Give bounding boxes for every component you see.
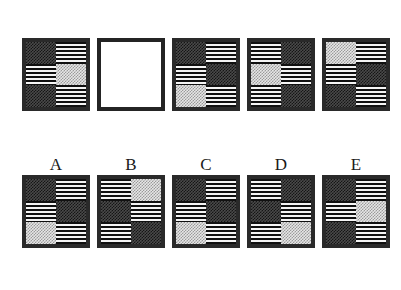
problem-tile-blank-cell <box>94 18 168 111</box>
segment-darkcheck-2 <box>251 201 281 223</box>
segment-darkcheck-1 <box>281 179 311 201</box>
answer-option-c-label: C <box>200 155 211 175</box>
problem-tile-1-cell <box>19 18 93 111</box>
segment-lightcheck-4 <box>26 222 56 244</box>
segment-darkcheck-3 <box>206 64 236 86</box>
segment-stripes-3 <box>281 201 311 223</box>
segment-stripes-5 <box>56 85 86 107</box>
segment-lightcheck-3 <box>56 64 86 86</box>
segment-stripes-2 <box>176 201 206 223</box>
problem-tile-4-cell <box>244 18 318 111</box>
answer-option-a-cell[interactable]: A <box>19 155 93 248</box>
segment-darkcheck-3 <box>56 201 86 223</box>
segment-stripes-4 <box>251 222 281 244</box>
segment-stripes-5 <box>56 222 86 244</box>
segment-lightcheck-1 <box>131 179 161 201</box>
segment-lightcheck-4 <box>176 85 206 107</box>
segment-stripes-5 <box>356 85 386 107</box>
segment-darkcheck-3 <box>356 64 386 86</box>
segment-darkcheck-4 <box>26 85 56 107</box>
segment-darkcheck-1 <box>281 42 311 64</box>
answer-option-a[interactable] <box>22 175 90 248</box>
segment-darkcheck-0 <box>26 179 56 201</box>
problem-tile-3-cell <box>169 18 243 111</box>
segment-stripes-5 <box>206 222 236 244</box>
segment-stripes-1 <box>356 42 386 64</box>
segment-darkcheck-3 <box>206 201 236 223</box>
blank-answer-tile <box>97 38 165 111</box>
segment-lightcheck-0 <box>326 42 356 64</box>
answer-option-b-label: B <box>125 155 136 175</box>
segment-stripes-1 <box>356 179 386 201</box>
segment-darkcheck-5 <box>281 85 311 107</box>
segment-stripes-2 <box>326 201 356 223</box>
segment-stripes-2 <box>176 64 206 86</box>
segment-stripes-5 <box>356 222 386 244</box>
problem-row <box>0 18 401 111</box>
segment-stripes-2 <box>26 201 56 223</box>
segment-stripes-3 <box>131 201 161 223</box>
answer-option-c[interactable] <box>172 175 240 248</box>
segment-darkcheck-0 <box>326 179 356 201</box>
segment-darkcheck-0 <box>176 42 206 64</box>
answer-option-e-label: E <box>351 155 361 175</box>
answer-option-d-cell[interactable]: D <box>244 155 318 248</box>
segment-stripes-0 <box>251 42 281 64</box>
segment-darkcheck-0 <box>26 42 56 64</box>
segment-stripes-2 <box>326 64 356 86</box>
problem-tile-3 <box>172 38 240 111</box>
answer-option-a-label: A <box>50 155 62 175</box>
answer-option-b[interactable] <box>97 175 165 248</box>
answer-option-d[interactable] <box>247 175 315 248</box>
problem-tile-5 <box>322 38 390 111</box>
segment-stripes-1 <box>56 179 86 201</box>
problem-tile-5-cell <box>319 18 393 111</box>
segment-stripes-2 <box>26 64 56 86</box>
segment-stripes-3 <box>281 64 311 86</box>
segment-darkcheck-5 <box>131 222 161 244</box>
answer-option-b-cell[interactable]: B <box>94 155 168 248</box>
answer-option-c-cell[interactable]: C <box>169 155 243 248</box>
answer-row: ABCDE <box>0 155 401 248</box>
segment-darkcheck-4 <box>326 85 356 107</box>
answer-option-d-label: D <box>275 155 287 175</box>
segment-stripes-0 <box>101 179 131 201</box>
problem-tile-4 <box>247 38 315 111</box>
segment-darkcheck-4 <box>326 222 356 244</box>
segment-lightcheck-3 <box>356 201 386 223</box>
segment-stripes-4 <box>251 85 281 107</box>
segment-stripes-4 <box>101 222 131 244</box>
segment-stripes-1 <box>56 42 86 64</box>
segment-stripes-5 <box>206 85 236 107</box>
segment-lightcheck-2 <box>251 64 281 86</box>
answer-option-e[interactable] <box>322 175 390 248</box>
segment-stripes-0 <box>251 179 281 201</box>
segment-lightcheck-5 <box>281 222 311 244</box>
segment-stripes-1 <box>206 42 236 64</box>
problem-tile-1 <box>22 38 90 111</box>
answer-option-e-cell[interactable]: E <box>319 155 393 248</box>
segment-lightcheck-4 <box>176 222 206 244</box>
segment-darkcheck-2 <box>101 201 131 223</box>
segment-darkcheck-0 <box>176 179 206 201</box>
segment-stripes-1 <box>206 179 236 201</box>
